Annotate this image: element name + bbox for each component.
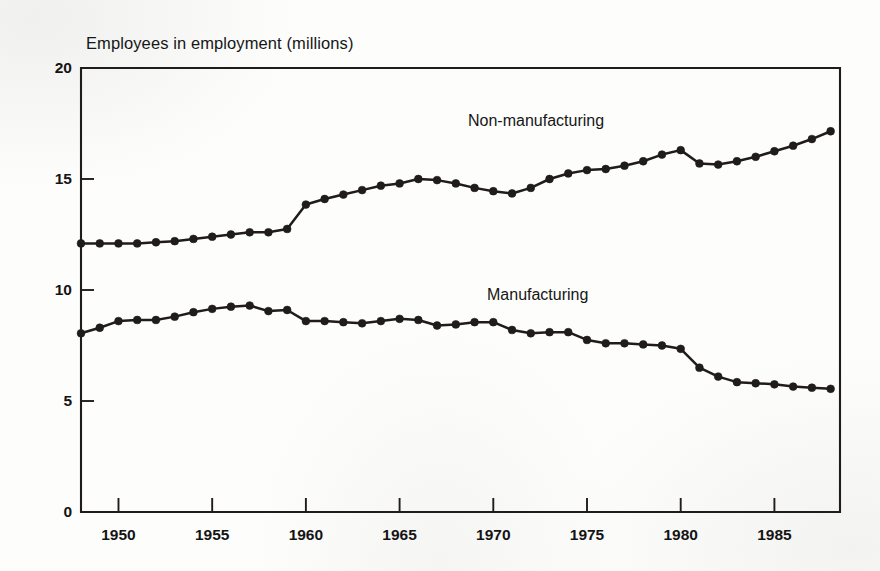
plot-area — [0, 0, 880, 571]
scanned-page-background: Employees in employment (millions) Non-m… — [0, 0, 880, 571]
line-chart-figure: Employees in employment (millions) Non-m… — [0, 0, 880, 571]
x-tick-label-1975: 1975 — [570, 526, 604, 544]
x-tick-label-1955: 1955 — [195, 526, 229, 544]
y-tick-label-0: 0 — [30, 503, 72, 521]
x-tick-label-1965: 1965 — [382, 526, 416, 544]
series-manufacturing — [77, 302, 834, 393]
y-tick-label-5: 5 — [30, 392, 72, 410]
x-tick-label-1985: 1985 — [757, 526, 791, 544]
axis-ticks — [81, 179, 774, 512]
data-series-group — [77, 127, 834, 392]
x-tick-label-1970: 1970 — [476, 526, 510, 544]
x-tick-label-1980: 1980 — [663, 526, 697, 544]
y-tick-label-20: 20 — [30, 59, 72, 77]
y-tick-label-10: 10 — [30, 281, 72, 299]
axis-frame — [81, 68, 840, 512]
x-tick-label-1960: 1960 — [289, 526, 323, 544]
x-tick-label-1950: 1950 — [101, 526, 135, 544]
y-tick-label-15: 15 — [30, 170, 72, 188]
series-non-manufacturing — [77, 127, 834, 247]
